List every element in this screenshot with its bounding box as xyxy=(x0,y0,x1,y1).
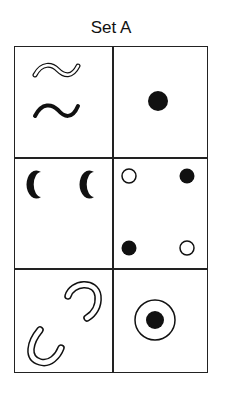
open-dot-icon xyxy=(122,169,136,183)
solid-dot-icon xyxy=(122,241,137,256)
outlined-u-shape-icon xyxy=(31,330,61,363)
outlined-wave-icon xyxy=(35,65,78,75)
crescent-icon xyxy=(26,171,41,199)
outlined-u-shape-icon xyxy=(68,285,98,318)
crescent-icon xyxy=(79,170,94,198)
figures xyxy=(0,0,231,395)
solid-wave-icon xyxy=(35,105,78,116)
solid-dot-icon xyxy=(180,169,195,184)
open-dot-icon xyxy=(180,241,194,255)
target-circle-icon xyxy=(135,300,175,340)
solid-dot-icon xyxy=(148,91,168,111)
